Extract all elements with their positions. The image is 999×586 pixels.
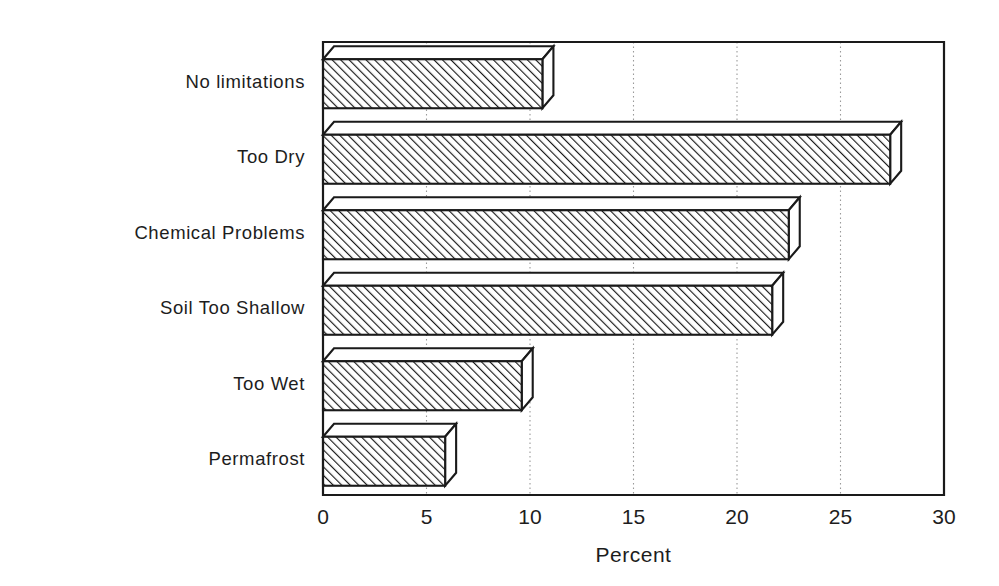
bar-front-face [323,361,522,410]
bar-chart: No limitations Too Dry Chemical Problems… [0,0,999,586]
x-tick-label: 5 [397,505,457,529]
bar [323,348,533,410]
bar-top-face [323,197,800,210]
category-label: Chemical Problems [0,222,305,244]
bar-front-face [323,437,445,486]
bar [323,197,800,259]
category-label: Soil Too Shallow [0,297,305,319]
bar [323,46,553,108]
bar [323,424,456,486]
x-tick-label: 15 [604,505,664,529]
category-label: No limitations [0,71,305,93]
bar-top-face [323,46,553,59]
x-axis-title: Percent [323,543,944,567]
bar-top-face [323,424,456,437]
category-label: Too Dry [0,146,305,168]
x-tick-label: 30 [914,505,974,529]
bar-front-face [323,59,542,108]
bar-top-face [323,122,901,135]
bar [323,122,901,184]
bar-front-face [323,286,772,335]
bar-front-face [323,210,789,259]
x-tick-label: 0 [293,505,353,529]
bar [323,273,783,335]
bar-top-face [323,348,533,361]
category-label: Too Wet [0,373,305,395]
category-label: Permafrost [0,448,305,470]
x-tick-label: 10 [500,505,560,529]
bar-top-face [323,273,783,286]
x-tick-label: 25 [811,505,871,529]
bar-front-face [323,135,890,184]
x-tick-label: 20 [707,505,767,529]
